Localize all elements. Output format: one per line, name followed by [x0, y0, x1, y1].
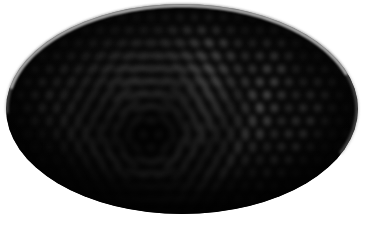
image-canvas: Dark elliptical object covered in a grid…	[0, 0, 365, 235]
dark-ellipse-scene	[0, 0, 365, 235]
